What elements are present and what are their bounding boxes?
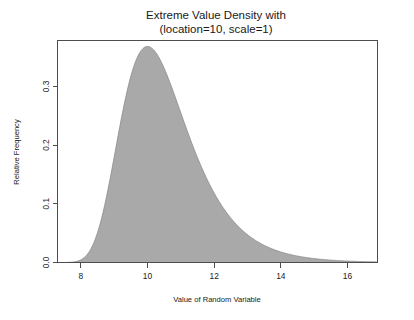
x-tick-label: 16 <box>343 271 353 281</box>
x-tick-label: 14 <box>276 271 286 281</box>
chart-title-line1: Extreme Value Density with <box>146 9 286 21</box>
y-tick-label: 0.1 <box>41 198 51 210</box>
x-axis-title: Value of Random Variable <box>173 295 261 304</box>
y-tick-label: 0.0 <box>41 256 51 268</box>
chart-title-line2: (location=10, scale=1) <box>159 23 272 35</box>
extreme-value-density-plot: Extreme Value Density with (location=10,… <box>0 0 414 320</box>
x-tick-label: 8 <box>78 271 83 281</box>
y-tick-label: 0.2 <box>41 139 51 151</box>
x-tick-label: 10 <box>143 271 153 281</box>
chart-figure: Extreme Value Density with (location=10,… <box>0 0 414 320</box>
y-tick-label: 0.3 <box>41 80 51 92</box>
x-tick-label: 12 <box>210 271 220 281</box>
y-axis-title: Relative Frequency <box>12 119 21 185</box>
